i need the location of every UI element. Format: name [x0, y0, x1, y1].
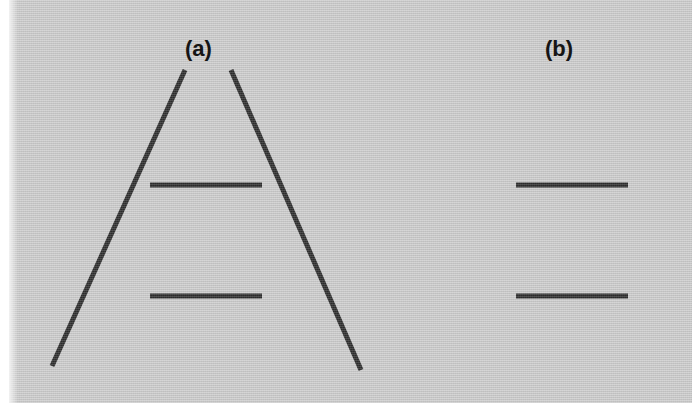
page-left-margin-fade: [9, 0, 18, 403]
panel-a-label: (a): [185, 36, 212, 62]
page-left-margin: [0, 0, 9, 403]
ponzo-illusion-figure: (a) (b): [0, 0, 692, 403]
panel-b-label: (b): [545, 36, 573, 62]
figure-canvas: [0, 0, 692, 403]
figure-background: [0, 0, 692, 403]
